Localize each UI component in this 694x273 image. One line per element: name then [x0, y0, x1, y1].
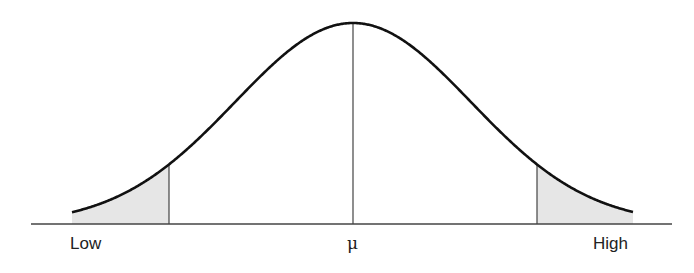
normal-distribution-diagram: Low μ High	[0, 0, 694, 273]
mean-label: μ	[347, 233, 358, 253]
low-label: Low	[70, 234, 101, 254]
high-label: High	[593, 234, 628, 254]
